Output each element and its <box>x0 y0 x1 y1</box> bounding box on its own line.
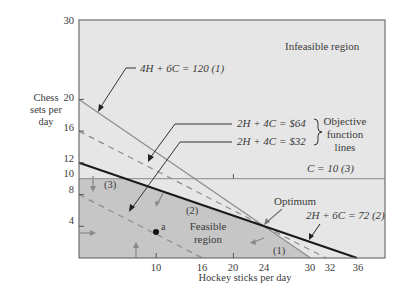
x-axis-title: Hockey sticks per day <box>160 272 330 283</box>
y-tick-8: 8 <box>69 184 74 195</box>
objective-group-label-2: function <box>327 128 364 140</box>
tag-2: (2) <box>186 205 199 217</box>
point-a-marker <box>153 229 159 235</box>
y-axis-title: Chess sets per day <box>18 92 74 128</box>
point-a-label: a <box>161 221 166 232</box>
x-tick-36: 36 <box>353 262 364 273</box>
optimum-label: Optimum <box>274 195 317 207</box>
y-tick-4: 4 <box>69 215 75 226</box>
y-tick-30: 30 <box>64 15 75 26</box>
y-axis-title-line-2: sets per <box>18 104 74 116</box>
y-tick-10: 10 <box>64 168 75 179</box>
feasible-region-label-1: Feasible <box>190 220 227 232</box>
y-tick-12: 12 <box>64 153 75 164</box>
objective-group-label-3: lines <box>335 141 356 153</box>
y-axis-title-line-3: day <box>18 116 74 128</box>
tag-3: (3) <box>104 179 117 191</box>
objective-group-label-1: Objective <box>324 115 367 127</box>
lp-graph: 30 20 16 12 10 8 4 10 16 20 24 30 32 36 … <box>0 0 406 300</box>
objective-32-label: 2H + 4C = $32 <box>237 135 306 147</box>
constraint-3-label: C = 10 (3) <box>307 162 354 175</box>
y-axis-title-line-1: Chess <box>18 92 74 104</box>
constraint-1-label: 4H + 6C = 120 (1) <box>140 62 225 75</box>
constraint-2-label: 2H + 6C = 72 (2) <box>306 209 385 222</box>
feasible-region-label-2: region <box>194 233 223 245</box>
objective-64-label: 2H + 4C = $64 <box>237 117 306 129</box>
infeasible-region-label: Infeasible region <box>285 40 360 52</box>
tag-1: (1) <box>273 245 286 257</box>
